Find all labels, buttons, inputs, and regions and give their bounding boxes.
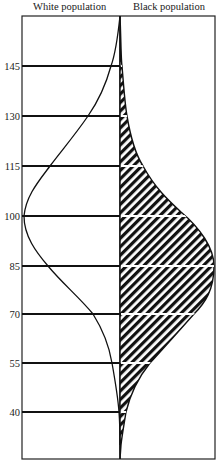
tick-label-115: 115 [5,161,20,172]
white-population-curve [24,16,120,445]
gridlines [22,66,120,412]
tick-label-145: 145 [4,61,20,72]
distribution-chart: 145 130 115 100 85 70 55 40 [0,0,220,462]
tick-label-55: 55 [10,358,21,369]
tick-label-100: 100 [4,211,20,222]
black-population-area [120,16,216,459]
tick-label-130: 130 [4,111,20,122]
tick-label-40: 40 [10,407,21,418]
tick-label-85: 85 [10,261,21,272]
tick-label-70: 70 [10,309,21,320]
y-axis-labels: 145 130 115 100 85 70 55 40 [4,61,20,418]
